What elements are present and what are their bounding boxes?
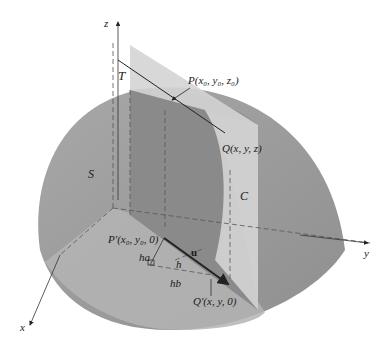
y-axis-label: y: [364, 248, 369, 259]
point-p-prime-label: P′(x₀, y₀, 0): [108, 234, 158, 245]
x-axis: [30, 255, 60, 325]
x-axis-label: x: [20, 322, 25, 333]
z-axis-label: z: [104, 18, 108, 29]
segment-hb-label: hb: [170, 278, 181, 289]
surface-label: S: [88, 168, 94, 180]
plane-label: T: [118, 69, 125, 82]
vector-u-label: u: [191, 247, 197, 258]
point-q-label: Q(x, y, z): [222, 143, 262, 154]
point-q-prime-label: Q′(x, y, 0): [193, 296, 236, 307]
curve-label: C: [240, 190, 248, 202]
segment-ha-label: ha: [139, 252, 150, 263]
segment-h-label: h: [176, 259, 182, 270]
point-p-label: P(x₀, y₀, z₀): [188, 75, 239, 86]
